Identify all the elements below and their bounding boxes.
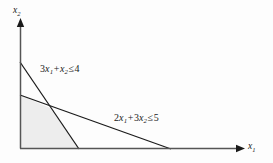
c1-var1: x: [45, 63, 50, 74]
feasible-region-shading: [20, 95, 79, 148]
x-axis-label: x1: [248, 142, 255, 153]
constraint-label-c1: 3x1+x2≤4: [40, 64, 80, 74]
c2-sub1: 1: [124, 117, 128, 124]
c2-var1: x: [119, 112, 124, 123]
y-axis-arrowhead-icon: [17, 18, 24, 27]
c1-sub2: 2: [64, 68, 68, 75]
c1-sub1: 1: [50, 68, 54, 75]
lp-feasible-region-figure: x2 x1 3x1+x2≤4 2x1+3x2≤5: [0, 0, 273, 163]
c2-var2: x: [139, 112, 144, 123]
constraint-label-c2: 2x1+3x2≤5: [114, 113, 159, 123]
x-axis-arrowhead-icon: [236, 145, 245, 152]
c2-sub2: 2: [144, 117, 148, 124]
c1-relation: ≤: [68, 63, 75, 74]
c2-plus: +: [127, 112, 134, 123]
x-axis-label-subscript: 1: [252, 146, 255, 153]
c2-rhs: 5: [154, 112, 159, 123]
c1-rhs: 4: [75, 63, 80, 74]
plot-canvas: [0, 0, 273, 163]
c1-plus: +: [53, 63, 60, 74]
c2-relation: ≤: [147, 112, 154, 123]
y-axis-label-subscript: 2: [17, 10, 20, 17]
y-axis-label: x2: [13, 6, 20, 17]
